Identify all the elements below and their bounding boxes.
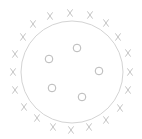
x-point-icon: [67, 9, 72, 16]
x-point-icon: [20, 33, 25, 40]
x-point-icon: [12, 50, 17, 57]
x-point-icon: [87, 11, 92, 18]
x-point-icon: [103, 116, 108, 123]
circle-point-icon: [73, 44, 81, 52]
circle-point-icon: [45, 55, 53, 63]
x-point-icon: [30, 20, 35, 27]
x-point-icon: [68, 126, 73, 133]
x-point-icon: [10, 68, 15, 75]
x-point-icon: [12, 86, 17, 93]
x-point-icon: [50, 123, 55, 130]
x-point-icon: [125, 49, 130, 56]
x-point-icon: [34, 114, 39, 121]
x-point-icon: [125, 86, 130, 93]
x-point-icon: [21, 103, 26, 110]
circle-point-icon: [95, 67, 103, 75]
x-point-icon: [103, 19, 108, 26]
circle-point-icon: [78, 93, 86, 101]
circle-point-icon: [48, 84, 56, 92]
x-point-icon: [127, 68, 132, 75]
x-point-icon: [47, 12, 52, 19]
diagram-canvas: [0, 0, 142, 139]
boundary-circle: [21, 21, 123, 123]
x-point-icon: [115, 33, 120, 40]
outer-points-group: [10, 9, 132, 133]
x-point-icon: [86, 123, 91, 130]
x-point-icon: [117, 104, 122, 111]
inner-points-group: [45, 44, 103, 101]
